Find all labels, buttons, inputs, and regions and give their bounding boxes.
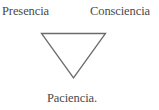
vertex-label-paciencia: Paciencia.	[47, 92, 97, 105]
